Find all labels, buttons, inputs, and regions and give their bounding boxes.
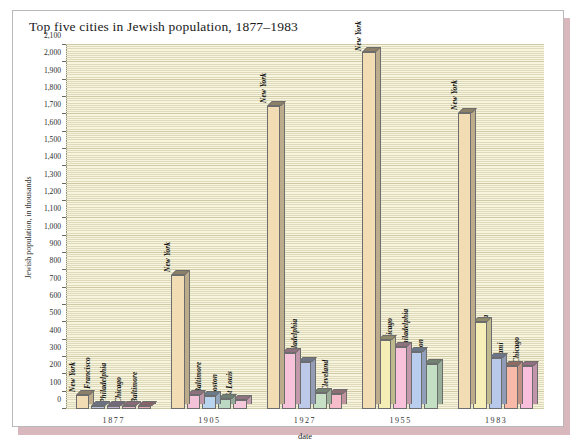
bar-city-label: New York — [354, 21, 363, 51]
x-axis-group-label: 1927 — [257, 416, 353, 425]
bar-front-face — [122, 406, 136, 409]
bar[interactable]: New York — [267, 106, 281, 409]
y-axis-tick-label: 900 — [50, 239, 61, 248]
bar-side-face — [296, 348, 301, 404]
y-axis-tick-label: 2,000 — [44, 49, 61, 58]
y-axis-tick-label: 1,900 — [44, 66, 61, 75]
y-axis-tick-label: 1,800 — [44, 83, 61, 92]
bar-group: New YorkLos AngelesPhiladelphiaMiamiChic… — [448, 45, 544, 409]
x-axis-group-label: 1905 — [162, 416, 258, 425]
chart-card: Top five cities in Jewish population, 18… — [12, 10, 564, 427]
bar[interactable]: Baltimore — [138, 406, 152, 409]
bar-group: New YorkSan FranciscoPhiladelphiaChicago… — [66, 45, 162, 409]
bar-side-face — [518, 361, 523, 404]
bar-side-face — [311, 357, 316, 404]
bar-city-label: New York — [163, 242, 172, 272]
y-axis-tick-label: 1,700 — [44, 101, 61, 110]
bar[interactable]: Chicago — [122, 406, 136, 409]
bar-city-label: Cleveland — [321, 360, 330, 391]
x-axis-group-label: 1877 — [66, 416, 162, 425]
bar-front-face — [107, 406, 121, 409]
bar-city-label: Baltimore — [130, 372, 139, 403]
bar[interactable]: New York — [458, 113, 472, 409]
x-axis-group-label: 1983 — [448, 416, 544, 425]
bar-city-label: New York — [450, 80, 459, 110]
bar-side-face — [407, 342, 412, 404]
bar[interactable]: New York — [76, 395, 90, 409]
y-axis-tick-label: 600 — [50, 291, 61, 300]
y-axis-tick-label: 800 — [50, 257, 61, 266]
y-axis-tick-label: 300 — [50, 343, 61, 352]
bar-side-face — [438, 359, 443, 404]
y-axis-tick-label: 200 — [50, 361, 61, 370]
y-axis-tick-label: 100 — [50, 378, 61, 387]
y-axis-tick-label: 0 — [57, 395, 61, 404]
bar-group: New YorkChicagoBaltimoreBostonSt Louis19… — [162, 45, 258, 409]
bar[interactable]: New York — [171, 275, 185, 409]
chart-title: Top five cities in Jewish population, 18… — [29, 19, 298, 35]
chart-screenshot: Top five cities in Jewish population, 18… — [0, 0, 577, 447]
bar-front-face — [171, 275, 185, 409]
bar-group: New YorkChicagoPhiladelphiaBostonClevela… — [257, 45, 353, 409]
bar-side-face — [533, 361, 538, 404]
bar-city-label: Chicago — [114, 377, 123, 403]
bar-city-label: New York — [68, 362, 77, 392]
bar-front-face — [76, 395, 90, 409]
y-axis-label-text: Jewish population, in thousands — [24, 176, 33, 278]
bar-side-face — [487, 317, 492, 404]
bar-group: New YorkLos AngelesChicagoPhiladelphiaBo… — [353, 45, 449, 409]
bar-city-label: New York — [259, 73, 268, 103]
bar[interactable]: Philadelphia — [107, 406, 121, 409]
plot-area: 01002003004005006007008009001,0001,1001,… — [66, 45, 544, 409]
y-axis-tick-label: 1,400 — [44, 153, 61, 162]
bar-side-face — [502, 353, 507, 404]
y-axis-tick-label: 500 — [50, 309, 61, 318]
y-axis-tick-label: 1,600 — [44, 118, 61, 127]
y-axis-tick-label: 1,500 — [44, 135, 61, 144]
x-axis-label: date — [66, 431, 544, 441]
bar-side-face — [391, 335, 396, 404]
y-axis-tick-label: 1,300 — [44, 170, 61, 179]
bar-front-face — [91, 406, 105, 409]
y-axis-tick-label: 1,100 — [44, 205, 61, 214]
bar-side-face — [280, 101, 285, 404]
bar-front-face — [267, 106, 281, 409]
bar-side-face — [185, 270, 190, 404]
bar-front-face — [458, 113, 472, 409]
y-axis-tick-label: 2,100 — [44, 31, 61, 40]
y-axis-tick-label: 1,200 — [44, 187, 61, 196]
y-axis-tick-label: 700 — [50, 274, 61, 283]
bar-city-label: Chicago — [512, 337, 521, 363]
bar[interactable]: San Francisco — [91, 406, 105, 409]
bar-side-face — [471, 108, 476, 404]
y-axis-tick-label: 400 — [50, 326, 61, 335]
bar-city-label: Baltimore — [194, 362, 203, 393]
x-axis-group-label: 1955 — [353, 416, 449, 425]
y-axis-tick-label: 1,000 — [44, 222, 61, 231]
y-axis-label: Jewish population, in thousands — [21, 45, 35, 409]
bar-front-face — [138, 406, 152, 409]
bar[interactable]: New York — [362, 52, 376, 409]
bar-side-face — [422, 347, 427, 404]
bar-city-label: Philadelphia — [99, 363, 108, 403]
bar-side-face — [376, 47, 381, 404]
bar-front-face — [362, 52, 376, 409]
